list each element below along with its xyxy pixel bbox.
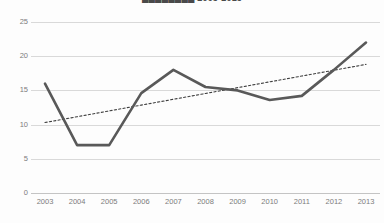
y-tick-label: 25 [0,18,28,26]
y-tick-label: 0 [0,189,28,197]
chart-screenshot: ████████ 2003-2013 0510152025 2003200420… [0,0,384,223]
plot-area [31,22,380,193]
chart-title: ████████ 2003-2013 [0,0,384,3]
x-tick-label: 2012 [326,198,343,206]
x-tick-label: 2008 [197,198,214,206]
x-tick-label: 2005 [101,198,118,206]
x-axis-tick-labels: 2003200420052006200720082009201020112012… [31,198,380,212]
data-series [31,22,380,193]
y-tick-label: 15 [0,86,28,94]
x-tick-label: 2004 [69,198,86,206]
x-tick-label: 2011 [294,198,310,206]
x-tick-label: 2010 [261,198,278,206]
x-tick-label: 2013 [358,198,375,206]
x-tick-label: 2006 [133,198,150,206]
x-tick-label: 2009 [229,198,246,206]
x-tick-label: 2007 [165,198,182,206]
y-tick-label: 5 [0,155,28,163]
series-line-path [45,43,366,146]
y-tick-label: 20 [0,52,28,60]
y-tick-label: 10 [0,121,28,129]
x-tick-label: 2003 [37,198,54,206]
gridline-0 [31,193,380,194]
